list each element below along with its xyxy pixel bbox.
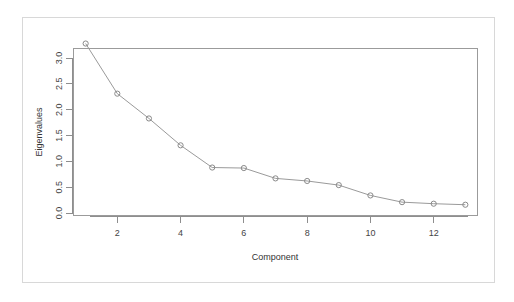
- x-tick-label: 10: [365, 228, 375, 238]
- y-tick-label: 1.5: [54, 129, 64, 142]
- eigenvalue-marker-group: [83, 41, 468, 207]
- x-axis-title: Component: [252, 252, 299, 262]
- chart-svg: 0.00.51.01.52.02.53.0 Eigenvalues 246810…: [0, 0, 514, 302]
- x-tick-label: 2: [115, 228, 120, 238]
- y-tick-label: 3.0: [54, 52, 64, 65]
- y-axis: 0.00.51.01.52.02.53.0 Eigenvalues: [34, 52, 73, 220]
- x-tick-group: [117, 217, 433, 224]
- y-tick-label: 1.0: [54, 155, 64, 168]
- data-series-eigenvalues: [83, 41, 468, 207]
- x-tick-label: 4: [178, 228, 183, 238]
- scree-plot-screenshot: 0.00.51.01.52.02.53.0 Eigenvalues 246810…: [0, 0, 514, 302]
- y-tick-label: 0.5: [54, 181, 64, 194]
- y-tick-label: 2.5: [54, 78, 64, 91]
- y-axis-title: Eigenvalues: [34, 107, 44, 157]
- x-tick-label-group: 24681012: [115, 228, 439, 238]
- x-axis: 24681012 Component: [90, 217, 468, 263]
- y-tick-label: 0.0: [54, 207, 64, 220]
- x-tick-label: 8: [305, 228, 310, 238]
- y-tick-group: [66, 58, 73, 213]
- y-tick-label: 2.0: [54, 103, 64, 116]
- y-tick-label-group: 0.00.51.01.52.02.53.0: [54, 52, 64, 220]
- x-tick-label: 6: [241, 228, 246, 238]
- x-tick-label: 12: [429, 228, 439, 238]
